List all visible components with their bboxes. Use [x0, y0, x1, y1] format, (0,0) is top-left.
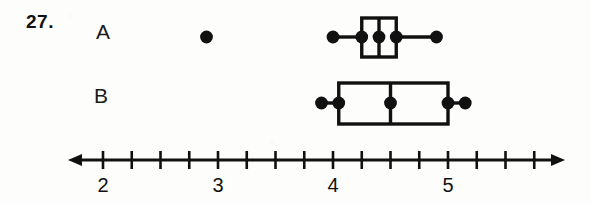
marker-dot-a-0	[327, 31, 340, 44]
marker-dot-a-1	[355, 31, 368, 44]
boxplot-series-a	[200, 18, 443, 57]
axis-arrow-right	[551, 154, 565, 166]
marker-dot-a-3	[390, 31, 403, 44]
marker-dot-a-4	[430, 31, 443, 44]
boxplot-canvas	[0, 0, 591, 203]
marker-dot-b-0	[315, 97, 328, 110]
outlier-dot-a-0	[200, 31, 213, 44]
axis-tick-label-3: 3	[212, 174, 223, 197]
marker-dot-b-2	[384, 97, 397, 110]
boxplot-figure: 27. A B 2345	[0, 0, 591, 203]
marker-dot-b-1	[332, 97, 345, 110]
boxplot-series-b	[315, 83, 472, 124]
axis-tick-label-4: 4	[327, 174, 338, 197]
axis-arrow-left	[68, 154, 82, 166]
axis-tick-label-5: 5	[442, 174, 453, 197]
marker-dot-b-3	[442, 97, 455, 110]
marker-dot-b-4	[459, 97, 472, 110]
marker-dot-a-2	[373, 31, 386, 44]
number-line-axis	[68, 151, 565, 169]
axis-tick-label-2: 2	[97, 174, 108, 197]
